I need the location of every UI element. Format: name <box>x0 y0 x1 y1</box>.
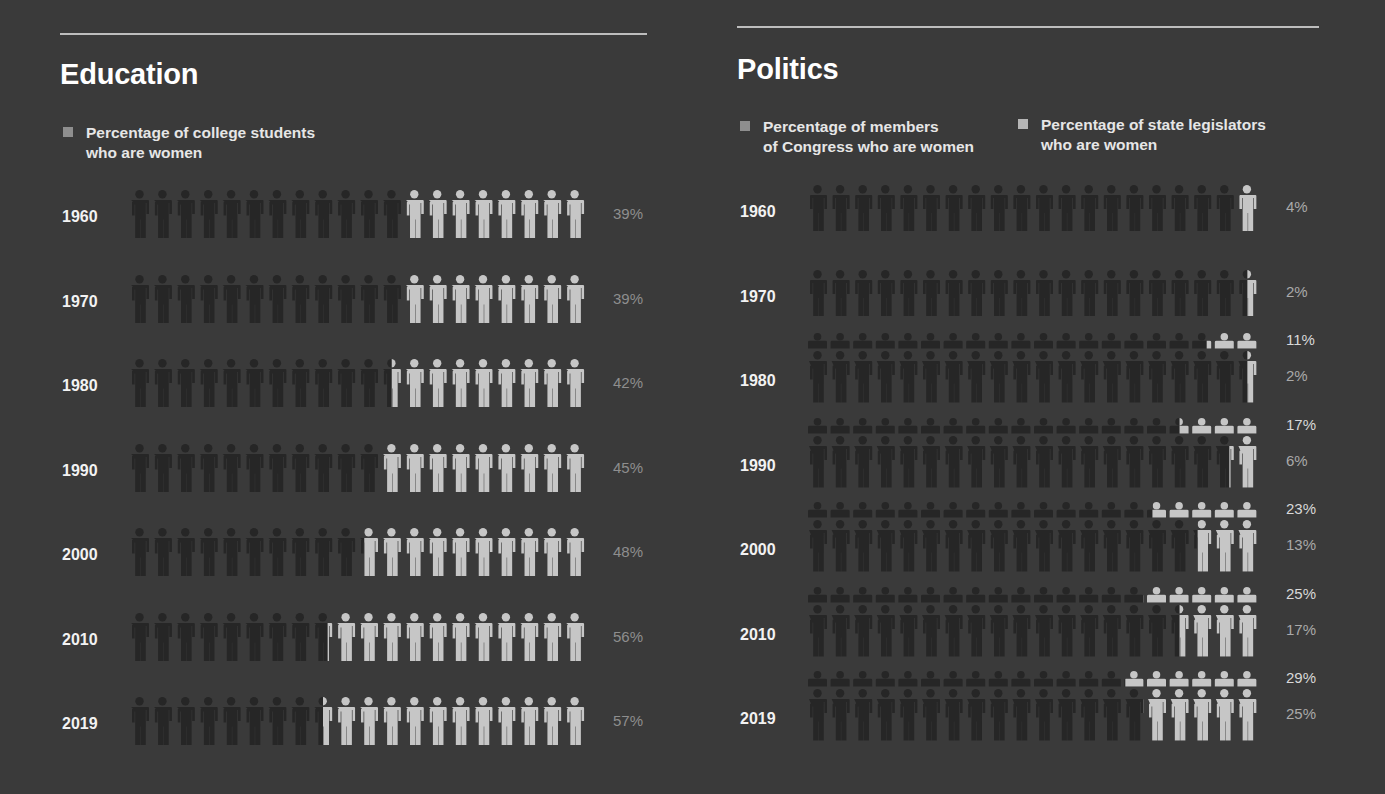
congress-percent-label: 6% <box>1286 452 1308 469</box>
politics-title: Politics <box>737 53 839 86</box>
education-top-rule <box>60 33 647 35</box>
legend-swatch-congress <box>740 121 750 131</box>
state-legislators-pictogram <box>808 333 1260 349</box>
pictogram-row <box>130 190 588 238</box>
legend-label-line1: Percentage of members <box>763 118 939 135</box>
percent-label: 48% <box>613 543 643 560</box>
percent-label: 42% <box>613 374 643 391</box>
pictogram-row <box>130 359 588 407</box>
congress-pictogram <box>808 185 1260 231</box>
politics-panel: Politics Percentage of members of Congre… <box>680 0 1385 794</box>
politics-top-rule <box>737 26 1319 28</box>
state-legislators-pictogram <box>808 418 1260 434</box>
congress-pictogram <box>808 351 1260 403</box>
state-percent-label: 29% <box>1286 669 1316 686</box>
year-label: 2000 <box>62 546 98 564</box>
congress-percent-label: 2% <box>1286 367 1308 384</box>
state-percent-label: 11% <box>1286 331 1315 348</box>
congress-pictogram <box>808 605 1260 657</box>
pictogram-row <box>130 444 588 492</box>
congress-pictogram <box>808 270 1260 316</box>
year-label: 2019 <box>62 715 98 733</box>
year-label: 1990 <box>62 462 98 480</box>
pictogram-row <box>130 697 588 745</box>
congress-percent-label: 2% <box>1286 283 1308 300</box>
percent-label: 57% <box>613 712 643 729</box>
legend-label-line1: Percentage of state legislators <box>1041 116 1266 133</box>
legend-label-line1: Percentage of college students <box>86 124 315 141</box>
pictogram-row <box>130 275 588 323</box>
year-label: 2010 <box>740 626 776 644</box>
percent-label: 45% <box>613 459 643 476</box>
year-label: 2010 <box>62 631 98 649</box>
state-percent-label: 23% <box>1286 500 1316 517</box>
congress-pictogram <box>808 436 1260 488</box>
percent-label: 39% <box>613 290 643 307</box>
congress-pictogram <box>808 689 1260 741</box>
legend-label-line2: who are women <box>1041 136 1157 153</box>
year-label: 1990 <box>740 457 776 475</box>
congress-percent-label: 13% <box>1286 536 1316 553</box>
congress-pictogram <box>808 520 1260 572</box>
year-label: 2019 <box>740 710 776 728</box>
state-percent-label: 25% <box>1286 585 1316 602</box>
percent-label: 56% <box>613 628 643 645</box>
year-label: 2000 <box>740 541 776 559</box>
year-label: 1960 <box>740 203 776 221</box>
legend-label-line2: of Congress who are women <box>763 138 974 155</box>
year-label: 1980 <box>740 372 776 390</box>
state-percent-label: 17% <box>1286 416 1316 433</box>
legend-swatch-college <box>63 127 73 137</box>
year-label: 1980 <box>62 377 98 395</box>
legend-label-line2: who are women <box>86 144 202 161</box>
education-title: Education <box>60 58 198 91</box>
year-label: 1960 <box>62 208 98 226</box>
year-label: 1970 <box>740 288 776 306</box>
state-legislators-pictogram <box>808 502 1260 518</box>
legend-swatch-state <box>1018 119 1028 129</box>
pictogram-row <box>130 613 588 661</box>
state-legislators-pictogram <box>808 587 1260 603</box>
congress-percent-label: 4% <box>1286 198 1308 215</box>
year-label: 1970 <box>62 293 98 311</box>
congress-percent-label: 25% <box>1286 705 1316 722</box>
state-legislators-pictogram <box>808 671 1260 687</box>
percent-label: 39% <box>613 205 643 222</box>
education-panel: Education Percentage of college students… <box>0 0 680 794</box>
pictogram-row <box>130 528 588 576</box>
congress-percent-label: 17% <box>1286 621 1316 638</box>
